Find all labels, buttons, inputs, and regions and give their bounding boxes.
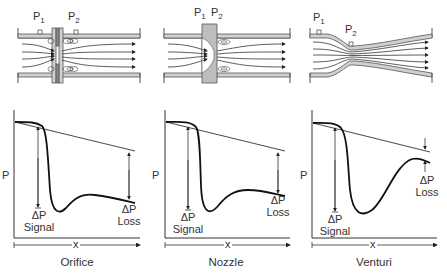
- venturi-p2-label: P2: [345, 23, 357, 38]
- nozzle-p2-label: P2: [211, 6, 223, 21]
- venturi-signal-text: Signal: [318, 225, 352, 237]
- nozzle-signal-text: Signal: [171, 223, 205, 235]
- diagram-canvas: [0, 0, 447, 273]
- nozzle-caption: Nozzle: [186, 256, 266, 268]
- venturi-p1-label: P1: [313, 11, 325, 26]
- nozzle-x-axis-label: x: [224, 239, 232, 250]
- nozzle-pipe: [164, 24, 290, 83]
- nozzle-y-axis-label: P: [152, 170, 159, 181]
- nozzle-loss-symbol: ΔP: [263, 194, 293, 206]
- venturi-signal-label: ΔP Signal: [318, 213, 352, 237]
- nozzle-loss-text: Loss: [263, 206, 293, 218]
- venturi-loss-label: ΔP Loss: [412, 174, 442, 198]
- orifice-pipe: [18, 28, 140, 83]
- nozzle-signal-symbol: ΔP: [171, 211, 205, 223]
- orifice-y-axis-label: P: [2, 170, 9, 181]
- orifice-p2-label: P2: [68, 10, 80, 25]
- nozzle-p1-label: P1: [194, 6, 206, 21]
- nozzle-signal-label: ΔP Signal: [171, 211, 205, 235]
- venturi-loss-text: Loss: [412, 186, 442, 198]
- orifice-p1-label: P1: [33, 10, 45, 25]
- orifice-signal-text: Signal: [22, 221, 56, 233]
- orifice-signal-symbol: ΔP: [22, 209, 56, 221]
- orifice-loss-text: Loss: [114, 215, 144, 227]
- orifice-loss-label: ΔP Loss: [114, 203, 144, 227]
- venturi-x-axis-label: x: [369, 239, 377, 250]
- orifice-x-axis-label: x: [72, 239, 80, 250]
- orifice-loss-symbol: ΔP: [114, 203, 144, 215]
- orifice-signal-label: ΔP Signal: [22, 209, 56, 233]
- venturi-pipe: [310, 28, 432, 83]
- orifice-caption: Orifice: [37, 256, 117, 268]
- venturi-loss-symbol: ΔP: [412, 174, 442, 186]
- venturi-signal-symbol: ΔP: [318, 213, 352, 225]
- nozzle-loss-label: ΔP Loss: [263, 194, 293, 218]
- venturi-caption: Venturi: [334, 256, 414, 268]
- venturi-y-axis-label: P: [300, 170, 307, 181]
